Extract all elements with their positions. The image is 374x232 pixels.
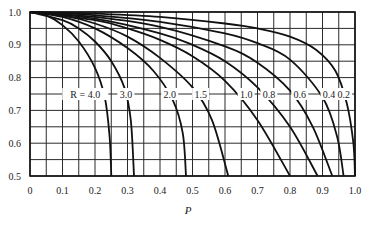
x-tick-label: 0.9 bbox=[316, 185, 329, 196]
chart: R = 4.03.02.01.51.00.80.60.40.2 00.10.20… bbox=[0, 0, 374, 232]
series-label-R-2.0: 2.0 bbox=[164, 89, 177, 100]
y-tick-label: 0.9 bbox=[9, 39, 22, 50]
x-tick-label: 0.5 bbox=[186, 185, 199, 196]
y-tick-label: 0.7 bbox=[9, 105, 22, 116]
series-label-R-0.4: 0.4 bbox=[323, 89, 336, 100]
x-tick-labels: 00.10.20.30.40.50.60.70.80.91.0 bbox=[28, 185, 362, 196]
y-tick-label: 0.5 bbox=[9, 171, 22, 182]
y-tick-label: 1.0 bbox=[9, 7, 22, 18]
x-tick-label: 1.0 bbox=[349, 185, 362, 196]
series-label-R-0.6: 0.6 bbox=[294, 89, 307, 100]
y-tick-label: 0.6 bbox=[9, 138, 22, 149]
x-tick-label: 0.3 bbox=[121, 185, 134, 196]
x-tick-label: 0.2 bbox=[89, 185, 102, 196]
x-tick-label: 0.1 bbox=[56, 185, 69, 196]
series-label-R-3.0: 3.0 bbox=[120, 89, 133, 100]
series-label-R-0.8: 0.8 bbox=[263, 89, 276, 100]
series-label-R-1.5: 1.5 bbox=[194, 89, 207, 100]
x-tick-label: 0 bbox=[28, 185, 33, 196]
x-axis-label: P bbox=[184, 204, 192, 216]
x-tick-label: 0.4 bbox=[154, 185, 167, 196]
y-tick-label: 0.8 bbox=[9, 72, 22, 83]
y-tick-labels: 0.50.60.70.80.91.0 bbox=[9, 7, 22, 182]
series-label-R-4.0: R = 4.0 bbox=[70, 89, 100, 100]
x-tick-label: 0.8 bbox=[284, 185, 297, 196]
x-tick-label: 0.7 bbox=[251, 185, 264, 196]
series-label-R-1.0: 1.0 bbox=[240, 89, 253, 100]
series-label-R-0.2: 0.2 bbox=[337, 89, 350, 100]
x-tick-label: 0.6 bbox=[219, 185, 232, 196]
